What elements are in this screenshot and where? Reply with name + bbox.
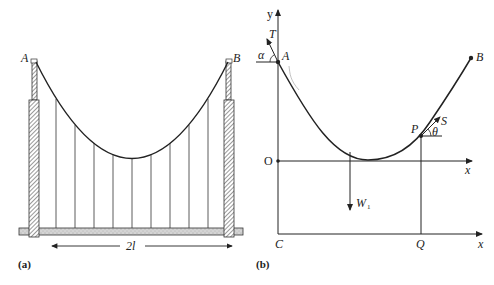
caption-a: (a) (18, 258, 31, 271)
origin-label: O (264, 154, 273, 168)
tension-t-label: T (269, 27, 277, 41)
angle-theta-label: θ (432, 125, 438, 139)
point-b-label: B (476, 50, 484, 64)
panel-a-suspension-bridge: A B 2l (a) (18, 51, 243, 271)
y-axis-label: y (267, 7, 273, 21)
x-axis-lower-label: x (477, 237, 484, 251)
stray-mark (289, 66, 299, 90)
cable-curve (278, 58, 471, 160)
right-tower (224, 59, 234, 237)
weight-subscript: 1 (367, 203, 371, 211)
point-b (469, 56, 473, 60)
point-a-label: A (281, 49, 290, 63)
label-a-tower-left: A (20, 51, 29, 65)
tension-s-label: S (441, 114, 447, 128)
main-cable (36, 62, 228, 159)
point-q-label: Q (416, 237, 425, 251)
origin-point (276, 159, 280, 163)
angle-alpha-arc (270, 55, 274, 62)
figure-canvas: A B 2l (a) y O x C x Q T α A (0, 0, 494, 285)
point-p-label: P (410, 122, 419, 136)
x-axis-upper-label: x (464, 163, 471, 177)
angle-theta-arc (428, 129, 431, 136)
label-a-tower-right: B (233, 51, 241, 65)
panel-b-catenary-diagram: y O x C x Q T α A B P S θ (256, 7, 484, 271)
weight-label: W (356, 196, 367, 210)
span-label: 2l (126, 239, 136, 253)
point-c-label: C (275, 237, 284, 251)
bridge-deck (19, 228, 243, 235)
angle-alpha-label: α (258, 48, 265, 62)
tension-t-arrow (267, 39, 278, 62)
hangers (56, 99, 208, 228)
left-tower (29, 59, 39, 237)
caption-b: (b) (256, 258, 270, 271)
